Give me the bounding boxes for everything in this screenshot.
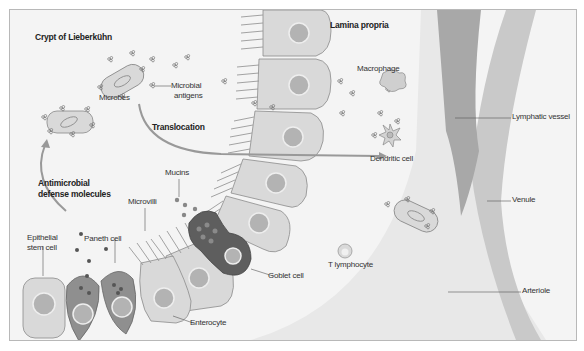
label-venule: Venule bbox=[512, 195, 535, 205]
label-antimicrobial-2: defense molecules bbox=[38, 189, 111, 199]
label-microbes: Microbes bbox=[99, 93, 130, 103]
label-crypt: Crypt of Lieberkühn bbox=[35, 32, 112, 42]
label-t-lymphocyte: T lymphocyte bbox=[328, 260, 373, 270]
label-enterocyte: Enterocyte bbox=[190, 318, 226, 328]
label-microvilli: Microvilli bbox=[128, 197, 157, 207]
label-paneth-cell: Paneth cell bbox=[84, 234, 121, 244]
label-mucins: Mucins bbox=[165, 168, 189, 178]
label-stem-cell-2: stem cell bbox=[27, 243, 57, 253]
microbe-2 bbox=[47, 111, 93, 133]
label-translocation: Translocation bbox=[152, 122, 205, 132]
label-macrophage: Macrophage bbox=[357, 64, 399, 74]
label-microbial-antigens-2: antigens bbox=[174, 91, 203, 101]
diagram-artwork bbox=[10, 10, 576, 340]
dendritic-cell-shape bbox=[379, 124, 401, 147]
label-arteriole: Arteriole bbox=[522, 286, 550, 296]
label-stem-cell-1: Epithelial bbox=[27, 233, 57, 243]
label-lamina-propria: Lamina propria bbox=[330, 20, 389, 30]
label-lymphatic-vessel: Lymphatic vessel bbox=[512, 112, 570, 122]
label-goblet-cell: Goblet cell bbox=[268, 271, 304, 281]
label-dendritic-cell: Dendritic cell bbox=[370, 154, 413, 164]
diagram-frame bbox=[9, 9, 577, 341]
label-antimicrobial-1: Antimicrobial bbox=[38, 178, 90, 188]
label-microbial-antigens-1: Microbial bbox=[171, 81, 201, 91]
